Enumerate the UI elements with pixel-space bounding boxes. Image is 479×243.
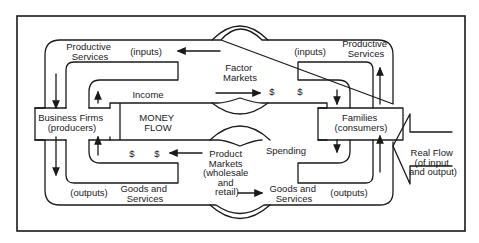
circular-flow-diagram: Productive Services (inputs) Factor Mark…	[0, 0, 479, 243]
real-flow-inner-bottom-left	[66, 140, 178, 183]
real-flow-inner-top-left	[66, 62, 178, 108]
label-inputs-right: (inputs)	[294, 46, 326, 57]
real-flow-inner-bottom-right	[298, 140, 373, 183]
node-product-markets: Product Markets (wholesale and retail)	[203, 148, 251, 197]
label-dollar-2: $	[297, 86, 303, 97]
node-business-firms: Business Firms (producers)	[38, 112, 106, 133]
label-goods-services-left: Goods and Services	[120, 183, 169, 204]
label-dollar-1: $	[269, 86, 275, 97]
label-real-flow: Real Flow (of input and output)	[409, 147, 457, 177]
label-dollar-3: $	[129, 148, 135, 159]
node-families: Families (consumers)	[335, 112, 388, 133]
label-outputs-left: (outputs)	[70, 187, 108, 198]
label-outputs-right: (outputs)	[330, 187, 368, 198]
label-income: Income	[132, 89, 163, 100]
label-productive-services-left: Productive Services	[66, 41, 114, 62]
label-productive-services-right: Productive Services	[342, 38, 390, 59]
label-inputs-left: (inputs)	[130, 46, 162, 57]
label-dollar-4: $	[154, 148, 160, 159]
label-money-flow: MONEY FLOW	[139, 112, 176, 133]
label-goods-services-right: Goods and Services	[269, 183, 318, 204]
real-flow-inner-top-right	[298, 62, 373, 108]
label-spending: Spending	[266, 145, 306, 156]
node-factor-markets: Factor Markets	[223, 62, 257, 83]
